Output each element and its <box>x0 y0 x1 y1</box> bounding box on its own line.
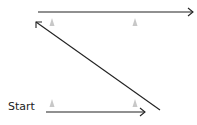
cone-icon <box>133 18 138 26</box>
top-run-arrow <box>38 8 193 16</box>
cone-icon <box>50 18 55 26</box>
diagonal-return-arrow <box>36 22 160 110</box>
bottom-run-arrow <box>46 108 145 116</box>
start-label: Start <box>8 100 35 113</box>
cone-icon <box>133 99 138 107</box>
cone-icon <box>50 99 55 107</box>
